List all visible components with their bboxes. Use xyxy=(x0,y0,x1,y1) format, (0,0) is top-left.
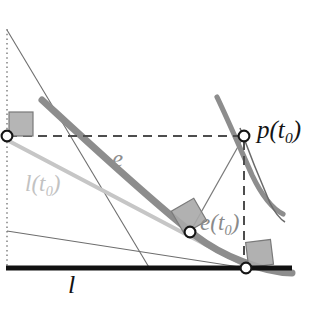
label-p-close-paren: ) xyxy=(293,116,301,143)
label-line-l-t0: l(t0) xyxy=(25,172,61,198)
label-p-open-paren: ( xyxy=(270,116,278,143)
label-l-base: l xyxy=(68,270,75,299)
label-et0-subscript: 0 xyxy=(224,222,231,238)
base-left-marker xyxy=(2,131,13,142)
label-lt0-open-paren: ( xyxy=(31,171,39,196)
label-point-p-t0: p(t0) xyxy=(257,117,301,145)
geometry-figure: p(t0) e e(t0) l(t0) l xyxy=(0,0,325,319)
label-curve-e: e xyxy=(112,146,123,171)
base-right-marker xyxy=(241,263,252,274)
right-angle-marker-origin xyxy=(9,112,33,136)
label-et0-open-paren: ( xyxy=(210,210,218,235)
label-e-base: e xyxy=(112,145,123,172)
e-t0-marker xyxy=(185,227,196,238)
figure-canvas xyxy=(0,0,325,319)
label-lt0-close-paren: ) xyxy=(53,171,61,196)
label-p-base: p xyxy=(257,116,270,143)
label-point-e-t0: e(t0) xyxy=(200,211,239,237)
label-p-arg: t xyxy=(278,116,285,143)
label-line-l: l xyxy=(68,272,75,298)
p-t0-marker xyxy=(239,131,250,142)
label-p-subscript: 0 xyxy=(285,129,293,146)
label-lt0-subscript: 0 xyxy=(45,183,52,199)
label-et0-close-paren: ) xyxy=(232,210,240,235)
label-et0-base: e xyxy=(200,210,210,235)
